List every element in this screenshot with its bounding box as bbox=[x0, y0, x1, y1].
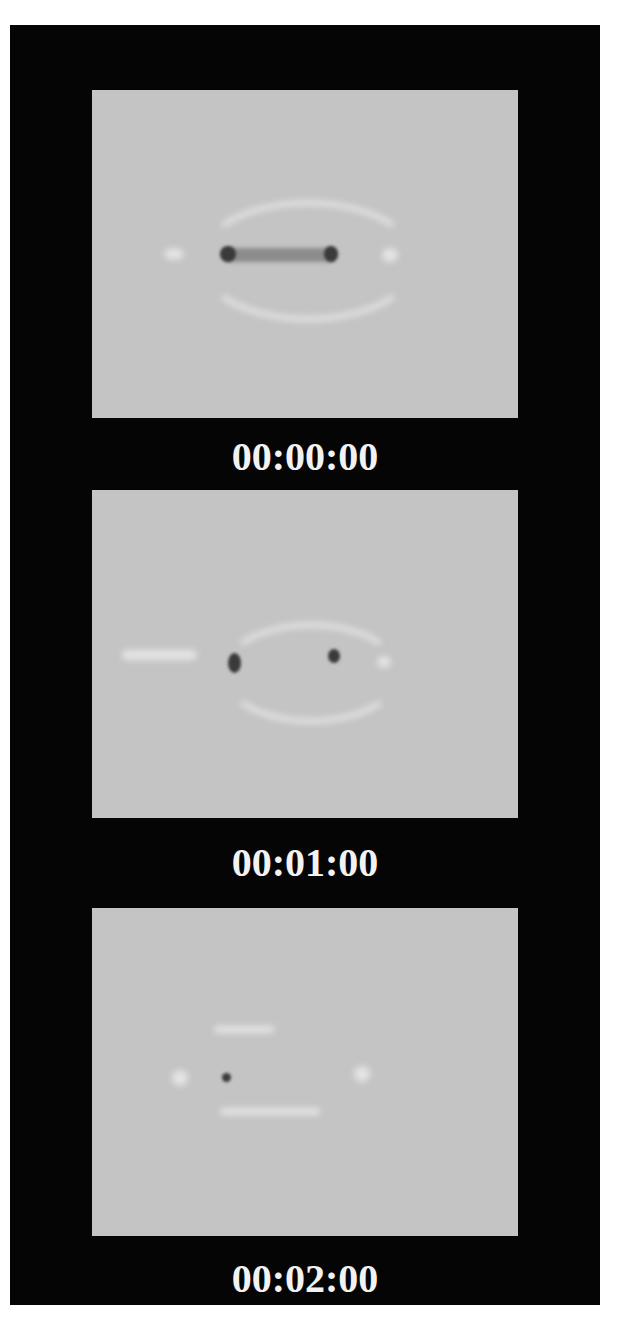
dark-spot bbox=[228, 653, 241, 673]
bright-spot bbox=[354, 1066, 370, 1082]
bright-spot bbox=[164, 248, 184, 260]
bright-arc-bottom bbox=[220, 1108, 320, 1115]
timestamp-label: 00:00:00 bbox=[10, 435, 600, 479]
timestamp-label: 00:01:00 bbox=[10, 841, 600, 885]
dark-spot bbox=[220, 246, 236, 262]
dark-dot bbox=[222, 1073, 231, 1082]
bright-arc-top bbox=[214, 1026, 274, 1033]
dark-spot bbox=[328, 649, 340, 663]
frame-image-0 bbox=[92, 90, 518, 418]
frame-image-2 bbox=[92, 908, 518, 1236]
bright-streak bbox=[122, 650, 197, 660]
bright-spot bbox=[377, 656, 391, 668]
halo-ring bbox=[220, 622, 402, 724]
frame-image-1 bbox=[92, 490, 518, 818]
image-frame: 00:00:00 00:01:00 00:02:00 bbox=[10, 25, 600, 1305]
timestamp-label: 00:02:00 bbox=[10, 1257, 600, 1301]
dark-bar bbox=[222, 248, 337, 262]
dark-spot bbox=[324, 246, 338, 262]
bright-spot bbox=[382, 248, 398, 262]
bright-spot bbox=[172, 1070, 188, 1086]
